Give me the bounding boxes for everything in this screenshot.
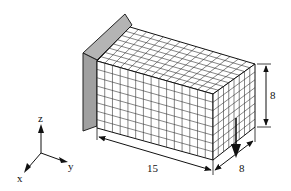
- z-axis-label: z: [38, 112, 43, 124]
- length-label: 15: [147, 162, 159, 174]
- coordinate-axes: z y x: [17, 112, 74, 184]
- dimension-height: 8: [257, 64, 276, 127]
- x-axis-label: x: [17, 172, 23, 184]
- y-axis-label: y: [68, 160, 74, 172]
- width-label: 8: [239, 162, 245, 174]
- diagram-canvas: 15 8 8 z y x: [0, 0, 291, 191]
- height-label: 8: [270, 89, 276, 101]
